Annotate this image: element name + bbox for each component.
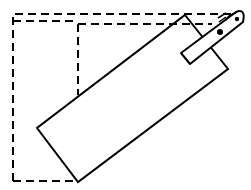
pivot-point-icon — [217, 29, 223, 35]
pivot-point-icon — [235, 17, 239, 21]
handle-strip — [181, 11, 244, 64]
diagram-canvas — [0, 0, 251, 190]
